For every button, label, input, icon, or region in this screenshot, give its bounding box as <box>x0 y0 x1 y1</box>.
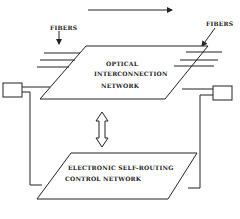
electronic-label-line1: ELECTRONIC SELF-ROUTING <box>68 164 174 171</box>
optical-label-line3: NETWORK <box>101 82 139 89</box>
fibers-right-label: FIBERS <box>206 20 233 27</box>
optical-label-line2: INTERCONNECTION <box>94 70 168 77</box>
right-node-box <box>213 86 232 100</box>
fibers-right-arrow <box>202 28 215 46</box>
electronic-label-line2: CONTROL NETWORK <box>65 175 141 182</box>
left-node-box <box>3 83 22 97</box>
diagram-graphics <box>0 0 240 219</box>
diagram-canvas: FIBERS FIBERS OPTICAL INTERCONNECTION NE… <box>0 0 240 219</box>
fibers-left-label: FIBERS <box>50 24 77 31</box>
optical-label-line1: OPTICAL <box>106 60 138 67</box>
bidirectional-arrow <box>96 112 108 147</box>
